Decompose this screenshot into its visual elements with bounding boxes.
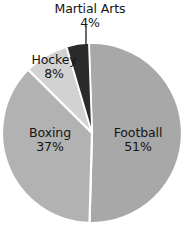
slice-label-football-name: Football: [104, 126, 172, 140]
slice-label-boxing-name: Boxing: [18, 126, 82, 140]
pie-chart-canvas: [0, 0, 185, 234]
slice-label-boxing-percent: 37%: [18, 140, 82, 154]
slice-label-boxing: Boxing 37%: [18, 126, 82, 154]
slice-label-football-percent: 51%: [104, 140, 172, 154]
slice-label-hockey-name: Hockey: [22, 53, 86, 67]
slice-label-football: Football 51%: [104, 126, 172, 154]
pie-chart: Martial Arts 4% Hockey 8% Boxing 37% Foo…: [0, 0, 185, 234]
slice-label-hockey-percent: 8%: [22, 67, 86, 81]
slice-label-hockey: Hockey 8%: [22, 53, 86, 81]
slice-label-martial-arts-percent: 4%: [25, 16, 155, 30]
slice-label-martial-arts-name: Martial Arts: [25, 2, 155, 16]
slice-label-martial-arts: Martial Arts 4%: [25, 2, 155, 30]
